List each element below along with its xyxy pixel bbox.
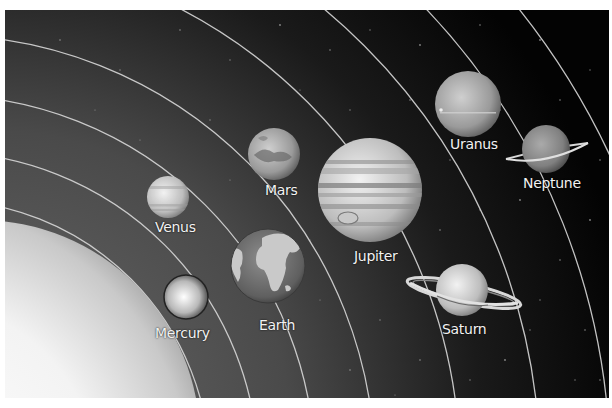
- planet-mars: [248, 128, 300, 180]
- solar-system-illustration: Mercury Venus Earth Mars Jupiter Saturn …: [5, 10, 609, 398]
- label-venus: Venus: [155, 219, 196, 235]
- label-mars: Mars: [265, 182, 298, 198]
- label-jupiter: Jupiter: [354, 248, 398, 264]
- label-saturn: Saturn: [442, 321, 486, 337]
- label-mercury: Mercury: [155, 325, 210, 341]
- label-earth: Earth: [259, 317, 295, 333]
- planet-mercury: [164, 275, 208, 319]
- planet-earth: [230, 229, 305, 303]
- label-uranus: Uranus: [450, 136, 498, 152]
- label-neptune: Neptune: [523, 175, 581, 191]
- planet-uranus: [435, 71, 501, 137]
- solar-system-svg: [5, 10, 609, 398]
